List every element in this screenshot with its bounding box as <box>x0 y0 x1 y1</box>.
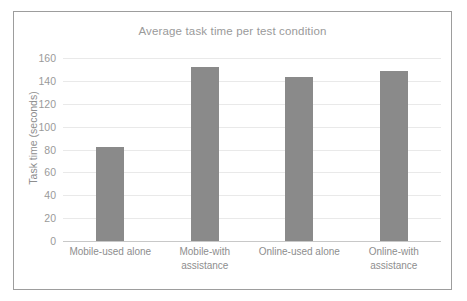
x-axis-tick-label-line: Mobile-with <box>155 245 255 259</box>
bar-slot <box>252 58 347 241</box>
plot-area: 160140120100806040200 <box>63 58 441 241</box>
y-axis-tick-label: 140 <box>38 75 56 87</box>
gridline <box>63 241 441 242</box>
bar[interactable] <box>191 67 219 241</box>
y-axis-tick-label: 80 <box>44 144 56 156</box>
y-axis-tick-label: 100 <box>38 121 56 133</box>
bar-slot <box>63 58 158 241</box>
x-axis-tick-label: Online-withassistance <box>344 245 444 272</box>
x-axis-tick-label-line: Online-with <box>344 245 444 259</box>
x-axis-tick-label: Online-used alone <box>249 245 349 259</box>
bar[interactable] <box>285 77 313 241</box>
x-axis-tick-label-line: Online-used alone <box>249 245 349 259</box>
x-axis-tick-label-line: assistance <box>155 259 255 273</box>
chart-frame: Average task time per test condition Tas… <box>13 11 452 290</box>
y-axis-tick-label: 60 <box>44 166 56 178</box>
y-axis-tick-label: 0 <box>50 235 56 247</box>
x-axis-tick-label: Mobile-used alone <box>60 245 160 259</box>
x-axis-tick-label: Mobile-withassistance <box>155 245 255 272</box>
y-axis-tick-label: 40 <box>44 189 56 201</box>
y-axis-tick-label: 20 <box>44 212 56 224</box>
y-axis-tick-label: 160 <box>38 52 56 64</box>
x-axis-tick-label-line: assistance <box>344 259 444 273</box>
bar-slot <box>158 58 253 241</box>
y-axis-title: Task time (seconds) <box>27 73 39 203</box>
x-axis-tick-labels: Mobile-used aloneMobile-withassistanceOn… <box>63 245 441 285</box>
bar-series <box>63 58 441 241</box>
bar-slot <box>347 58 442 241</box>
bar[interactable] <box>380 71 408 241</box>
x-axis-tick-label-line: Mobile-used alone <box>60 245 160 259</box>
bar[interactable] <box>96 147 124 241</box>
y-axis-tick-label: 120 <box>38 98 56 110</box>
chart-title: Average task time per test condition <box>14 25 451 37</box>
